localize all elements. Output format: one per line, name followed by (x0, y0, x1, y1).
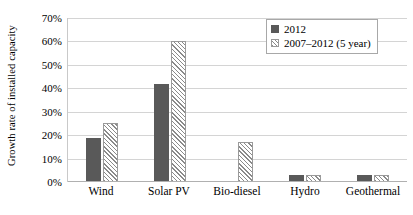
x-tick-label: Geothermal (339, 183, 407, 207)
chart-legend: 20122007–2012 (5 year) (266, 19, 378, 54)
x-tick-label: Solar PV (135, 183, 203, 207)
bar-five-year (238, 142, 253, 182)
bar-group-bio-diesel (204, 18, 272, 182)
x-tick-label: Wind (67, 183, 135, 207)
bar-current-year (86, 138, 101, 183)
legend-item-label: 2007–2012 (5 year) (284, 37, 371, 49)
x-axis-tick-labels: WindSolar PVBio-dieselHydroGeothermal (67, 183, 407, 207)
y-tick-label: 10% (42, 153, 62, 165)
bar-five-year (171, 41, 186, 182)
bar-current-year (154, 84, 169, 182)
x-tick-label: Bio-diesel (203, 183, 271, 207)
bar-five-year (103, 123, 118, 182)
y-axis-tick-labels: 70%60%50%40%30%20%10%0% (22, 18, 66, 182)
y-tick-label: 60% (42, 35, 62, 47)
y-tick-label: 30% (42, 106, 62, 118)
y-tick-label: 50% (42, 59, 62, 71)
y-tick-label: 20% (42, 129, 62, 141)
x-axis-line (68, 181, 407, 182)
x-tick-label: Hydro (271, 183, 339, 207)
y-tick-label: 70% (42, 12, 62, 24)
legend-item: 2007–2012 (5 year) (271, 36, 371, 50)
bar-group-solar-pv (136, 18, 204, 182)
y-tick-label: 40% (42, 82, 62, 94)
hatched-square-icon (271, 39, 279, 47)
legend-item-label: 2012 (284, 23, 306, 35)
bar-chart: Growth rate of installed capacity 70%60%… (0, 0, 413, 215)
y-axis-title: Growth rate of installed capacity (0, 0, 22, 190)
bar-group-wind (68, 18, 136, 182)
legend-item: 2012 (271, 22, 371, 36)
solid-square-icon (271, 25, 279, 33)
y-axis-title-text: Growth rate of installed capacity (6, 25, 17, 166)
y-tick-label: 0% (47, 176, 62, 188)
